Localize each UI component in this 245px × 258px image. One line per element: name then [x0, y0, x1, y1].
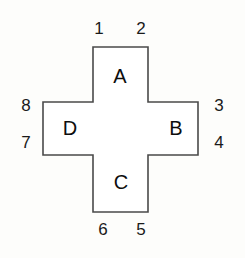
arm-label-b: B [161, 118, 191, 138]
arm-label-d: D [55, 118, 85, 138]
vertex-label-5: 5 [132, 221, 150, 238]
cross-diagram [0, 0, 245, 258]
vertex-label-2: 2 [132, 20, 150, 37]
vertex-label-6: 6 [94, 221, 112, 238]
arm-label-a: A [105, 66, 135, 86]
vertex-label-8: 8 [17, 97, 35, 114]
vertex-label-7: 7 [17, 134, 35, 151]
vertex-label-3: 3 [210, 97, 228, 114]
figure-canvas: A B C D 1 2 3 4 5 6 7 8 [0, 0, 245, 258]
vertex-label-1: 1 [90, 20, 108, 37]
arm-label-c: C [106, 172, 136, 192]
vertex-label-4: 4 [210, 134, 228, 151]
